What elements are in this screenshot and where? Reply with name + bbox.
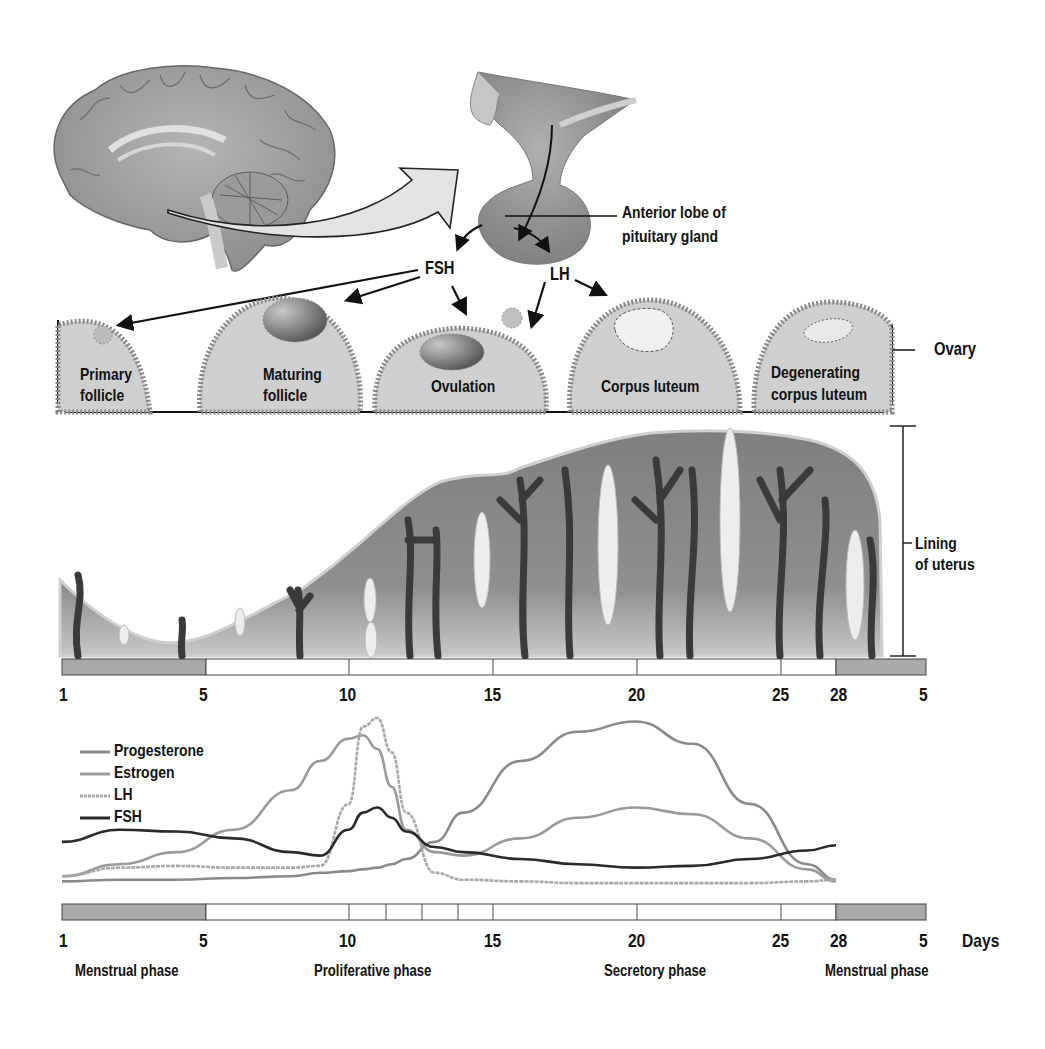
day-bar-bottom xyxy=(62,904,926,920)
legend-fsh-label: FSH xyxy=(114,807,142,827)
tick-bottom-28: 28 xyxy=(830,930,847,952)
lh-label: LH xyxy=(550,265,570,284)
phase-menstrual-end: Menstrual phase xyxy=(825,962,929,980)
legend-fsh: FSH xyxy=(114,807,148,827)
tick-top-1: 1 xyxy=(59,684,68,706)
tick-bottom-5b: 5 xyxy=(919,930,928,952)
legend-estrogen: Estrogen xyxy=(114,763,188,783)
hormone-arrows xyxy=(120,270,604,325)
days-axis-label: Days xyxy=(962,930,999,952)
stage-ovulation: Ovulation xyxy=(431,378,495,396)
tick-top-28: 28 xyxy=(830,684,847,706)
tick-top-15: 15 xyxy=(484,684,501,706)
tick-bottom-1: 1 xyxy=(59,930,68,952)
tick-top-5: 5 xyxy=(199,684,208,706)
tick-bottom-15: 15 xyxy=(484,930,501,952)
pituitary-label-line1: Anterior lobe of xyxy=(622,204,726,222)
uterus-label-line2: of uterus xyxy=(915,556,975,574)
stage-primary-line1: Primary xyxy=(80,366,132,384)
stage-degenerating-line2: corpus luteum xyxy=(771,386,867,404)
legend-progesterone-label: Progesterone xyxy=(114,741,204,761)
tick-top-20: 20 xyxy=(628,684,645,706)
day-bar-top xyxy=(62,659,926,675)
tick-top-10: 10 xyxy=(339,684,356,706)
stage-degenerating-line1: Degenerating xyxy=(771,364,860,382)
stage-maturing-line1: Maturing xyxy=(263,366,322,384)
legend-lh-label: LH xyxy=(114,785,133,805)
legend-estrogen-label: Estrogen xyxy=(114,763,174,783)
phase-secretory: Secretory phase xyxy=(604,962,706,980)
uterus-label-line1: Lining xyxy=(915,535,957,553)
ovary-label: Ovary xyxy=(934,340,976,359)
pituitary-gland-illustration xyxy=(458,72,636,264)
legend-lh: LH xyxy=(114,785,137,805)
tick-top-25: 25 xyxy=(772,684,789,706)
brain-illustration xyxy=(54,66,335,271)
uterine-lining xyxy=(60,426,916,658)
pituitary-label-line2: pituitary gland xyxy=(622,228,718,246)
tick-top-5b: 5 xyxy=(919,684,928,706)
tick-bottom-25: 25 xyxy=(772,930,789,952)
phase-menstrual-start: Menstrual phase xyxy=(75,962,179,980)
tick-bottom-5: 5 xyxy=(199,930,208,952)
diagram-canvas xyxy=(0,0,1045,1049)
tick-bottom-20: 20 xyxy=(628,930,645,952)
tick-bottom-10: 10 xyxy=(339,930,356,952)
legend-progesterone: Progesterone xyxy=(114,741,224,761)
fsh-label: FSH xyxy=(425,259,455,278)
stage-primary-line2: follicle xyxy=(80,387,124,405)
legend-swatches xyxy=(80,752,110,818)
stage-maturing-line2: follicle xyxy=(263,387,307,405)
phase-proliferative: Proliferative phase xyxy=(314,962,431,980)
stage-corpus-luteum: Corpus luteum xyxy=(601,378,699,396)
curve-fsh xyxy=(62,807,836,867)
